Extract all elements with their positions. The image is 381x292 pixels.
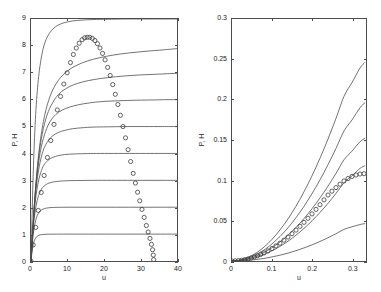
ytick-left bbox=[231, 262, 234, 263]
series-markers-5 bbox=[232, 172, 366, 261]
ytick-right bbox=[175, 99, 178, 100]
series-line-7 bbox=[31, 49, 177, 261]
left-plot-area bbox=[30, 18, 178, 262]
right-yaxis-title: P, H bbox=[198, 134, 206, 147]
xtick-bottom bbox=[141, 259, 142, 262]
ytick-label: 0.3 bbox=[190, 14, 227, 22]
ytick-left bbox=[30, 235, 33, 236]
series-line-3 bbox=[232, 166, 365, 261]
ytick-right bbox=[175, 45, 178, 46]
xtick-bottom bbox=[353, 259, 354, 262]
ytick-right bbox=[175, 72, 178, 73]
ytick-right bbox=[175, 154, 178, 155]
series-line-0 bbox=[232, 63, 365, 261]
ytick-label: 0.05 bbox=[190, 217, 227, 225]
xtick-label: 0.3 bbox=[348, 265, 358, 273]
ytick-right bbox=[364, 181, 367, 182]
ytick-left bbox=[30, 99, 33, 100]
xtick-label: 0.1 bbox=[267, 265, 277, 273]
xtick-label: 40 bbox=[174, 265, 182, 273]
ytick-right bbox=[175, 262, 178, 263]
ytick-right bbox=[175, 235, 178, 236]
ytick-label: 7 bbox=[0, 68, 26, 76]
ytick-label: 1 bbox=[0, 231, 26, 239]
ytick-right bbox=[364, 18, 367, 19]
xtick-top bbox=[312, 18, 313, 21]
ytick-left bbox=[30, 154, 33, 155]
left-yaxis-title: P, H bbox=[11, 134, 19, 147]
ytick-label: 5 bbox=[0, 122, 26, 130]
ytick-label: 8 bbox=[0, 41, 26, 49]
ytick-label: 0 bbox=[190, 258, 227, 266]
xtick-label: 20 bbox=[100, 265, 108, 273]
series-line-4 bbox=[31, 127, 177, 261]
xtick-top bbox=[178, 18, 179, 21]
xtick-label: 0.2 bbox=[307, 265, 317, 273]
xtick-bottom bbox=[104, 259, 105, 262]
right-plot-area bbox=[231, 18, 367, 262]
ytick-label: 0.1 bbox=[190, 177, 227, 185]
ytick-left bbox=[30, 45, 33, 46]
xtick-bottom bbox=[67, 259, 68, 262]
xtick-top bbox=[272, 18, 273, 21]
series-line-0 bbox=[31, 234, 177, 261]
ytick-left bbox=[231, 59, 234, 60]
xtick-bottom bbox=[178, 259, 179, 262]
ytick-right bbox=[364, 59, 367, 60]
xtick-label: 30 bbox=[137, 265, 145, 273]
ytick-right bbox=[175, 126, 178, 127]
ytick-label: 0.15 bbox=[190, 136, 227, 144]
ytick-right bbox=[364, 262, 367, 263]
ytick-right bbox=[364, 140, 367, 141]
left-xaxis-title: u bbox=[102, 274, 106, 282]
ytick-left bbox=[30, 72, 33, 73]
ytick-label: 3 bbox=[0, 177, 26, 185]
left-plot-curves bbox=[31, 19, 177, 261]
right-plot-curves bbox=[232, 19, 366, 261]
series-line-2 bbox=[31, 180, 177, 261]
ytick-left bbox=[30, 181, 33, 182]
ytick-right bbox=[364, 221, 367, 222]
xtick-top bbox=[104, 18, 105, 21]
ytick-label: 0 bbox=[0, 258, 26, 266]
ytick-left bbox=[231, 181, 234, 182]
ytick-right bbox=[364, 99, 367, 100]
ytick-right bbox=[175, 181, 178, 182]
ytick-label: 0.2 bbox=[190, 95, 227, 103]
xtick-top bbox=[353, 18, 354, 21]
ytick-label: 4 bbox=[0, 150, 26, 158]
ytick-left bbox=[231, 221, 234, 222]
right-panel: 00.10.20.300.050.10.150.20.250.3 u P, H bbox=[190, 0, 381, 292]
xtick-bottom bbox=[272, 259, 273, 262]
ytick-label: 6 bbox=[0, 95, 26, 103]
series-markers-9 bbox=[31, 35, 156, 261]
ytick-left bbox=[231, 140, 234, 141]
xtick-label: 10 bbox=[63, 265, 71, 273]
ytick-left bbox=[30, 18, 33, 19]
ytick-left bbox=[231, 99, 234, 100]
ytick-label: 9 bbox=[0, 14, 26, 22]
ytick-left bbox=[30, 208, 33, 209]
ytick-left bbox=[231, 18, 234, 19]
xtick-top bbox=[67, 18, 68, 21]
xtick-top bbox=[141, 18, 142, 21]
xtick-label: 0 bbox=[229, 265, 233, 273]
xtick-bottom bbox=[312, 259, 313, 262]
series-line-2 bbox=[232, 138, 365, 261]
ytick-left bbox=[30, 262, 33, 263]
ytick-right bbox=[175, 208, 178, 209]
right-xaxis-title: u bbox=[297, 274, 301, 282]
ytick-label: 2 bbox=[0, 204, 26, 212]
figure-root: 0102030400123456789 u P, H 00.10.20.300.… bbox=[0, 0, 381, 292]
ytick-left bbox=[30, 126, 33, 127]
left-panel: 0102030400123456789 u P, H bbox=[0, 0, 190, 292]
ytick-right bbox=[175, 18, 178, 19]
ytick-label: 0.25 bbox=[190, 55, 227, 63]
xtick-label: 0 bbox=[28, 265, 32, 273]
